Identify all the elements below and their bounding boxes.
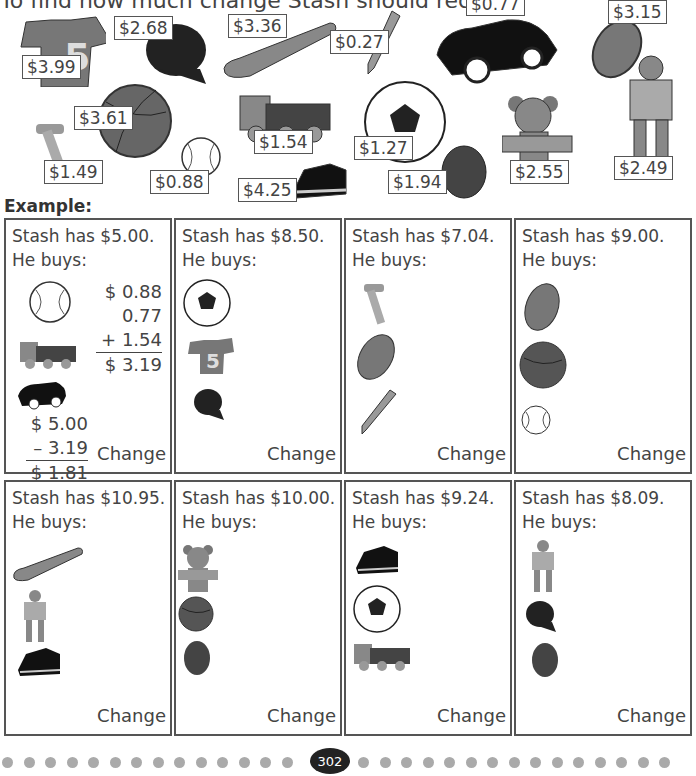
problem-card-3: Stash has $7.04.He buys: Change xyxy=(344,218,512,474)
money-has: Stash has $8.50. xyxy=(182,224,324,248)
price-tag-train: $1.54 xyxy=(254,130,313,154)
jersey-icon: 5 xyxy=(186,336,236,376)
price-tag-sneaker: $4.25 xyxy=(238,178,297,202)
pencil-icon xyxy=(358,388,398,436)
price-tag-car: $0.77 xyxy=(466,0,525,16)
buys-label: He buys: xyxy=(12,248,154,272)
price-tag-cap: $2.68 xyxy=(114,16,173,40)
sneaker-icon xyxy=(354,544,400,576)
train-icon xyxy=(18,336,78,372)
price-tag-basketball: $3.61 xyxy=(74,106,133,130)
buys-label: He buys: xyxy=(12,510,165,534)
money-has: Stash has $10.00. xyxy=(182,486,335,510)
sneaker-icon xyxy=(290,160,350,200)
money-has: Stash has $5.00. xyxy=(12,224,154,248)
change-label: Change xyxy=(617,443,686,464)
change-label: Change xyxy=(437,443,506,464)
basketball-icon xyxy=(178,596,214,632)
price-tag-jersey: $3.99 xyxy=(22,55,81,79)
problem-card-6: Stash has $10.00.He buys: Change xyxy=(174,480,342,736)
buys-label: He buys: xyxy=(352,248,494,272)
buys-label: He buys: xyxy=(522,510,664,534)
footer-dots-left xyxy=(2,757,293,771)
price-tag-pencil: $0.27 xyxy=(330,30,389,54)
problem-card-2: Stash has $8.50.He buys: 5 Change xyxy=(174,218,342,474)
cap-icon xyxy=(192,386,226,422)
money-has: Stash has $9.00. xyxy=(522,224,664,248)
problem-card-4: Stash has $9.00.He buys: Change xyxy=(514,218,692,474)
price-tag-hammer: $1.49 xyxy=(44,160,103,184)
change-label: Change xyxy=(437,705,506,726)
problem-card-8: Stash has $8.09.He buys: Change xyxy=(514,480,692,736)
buys-label: He buys: xyxy=(522,248,664,272)
football-icon xyxy=(520,282,564,332)
mitt-icon xyxy=(182,640,212,676)
money-has: Stash has $7.04. xyxy=(352,224,494,248)
hammer-icon xyxy=(362,282,392,326)
change-label: Change xyxy=(97,443,166,464)
money-has: Stash has $10.95. xyxy=(12,486,165,510)
change-label: Change xyxy=(97,705,166,726)
svg-text:5: 5 xyxy=(206,349,220,373)
subtraction-work: $ 5.00 – 3.19 $ 1.81 xyxy=(26,412,88,485)
price-tag-mitt: $1.94 xyxy=(388,170,447,194)
buys-label: He buys: xyxy=(182,248,324,272)
cap-icon xyxy=(524,598,558,634)
robot-icon xyxy=(18,588,52,644)
change-label: Change xyxy=(617,705,686,726)
money-has: Stash has $9.24. xyxy=(352,486,494,510)
car-icon xyxy=(432,10,562,85)
price-tag-football: $3.15 xyxy=(608,0,667,24)
car-icon xyxy=(16,378,68,410)
soccer-ball-icon xyxy=(182,278,232,328)
bat-icon xyxy=(12,546,84,582)
page-number: 302 xyxy=(310,748,350,774)
buys-label: He buys: xyxy=(352,510,494,534)
addition-work: $ 0.88 0.77 + 1.54 $ 3.19 xyxy=(96,280,162,377)
problem-card-1: Stash has $5.00.He buys: $ 0.88 0.77 + 1… xyxy=(4,218,172,474)
problem-card-5: Stash has $10.95.He buys: Change xyxy=(4,480,172,736)
example-label: Example: xyxy=(4,196,92,216)
change-label: Change xyxy=(267,443,336,464)
price-tag-bat: $3.36 xyxy=(228,14,287,38)
baseball-icon xyxy=(28,280,72,324)
robot-icon xyxy=(526,538,560,594)
basketball-icon xyxy=(518,340,568,390)
footer-dots-right xyxy=(358,757,670,771)
baseball-icon xyxy=(520,404,552,436)
train-icon xyxy=(352,638,412,674)
money-has: Stash has $8.09. xyxy=(522,486,664,510)
buys-label: He buys: xyxy=(182,510,335,534)
problem-card-7: Stash has $9.24.He buys: Change xyxy=(344,480,512,736)
soccer-ball-icon xyxy=(352,584,402,634)
football-icon xyxy=(354,332,398,382)
price-tag-baseball: $0.88 xyxy=(150,170,209,194)
price-tag-robot: $2.49 xyxy=(614,156,673,180)
price-tag-soccer-ball: $1.27 xyxy=(354,136,413,160)
teddy-bear-icon xyxy=(178,544,220,594)
mitt-icon xyxy=(530,642,560,678)
change-label: Change xyxy=(267,705,336,726)
price-tag-teddy-bear: $2.55 xyxy=(510,160,569,184)
sneaker-icon xyxy=(16,646,62,678)
